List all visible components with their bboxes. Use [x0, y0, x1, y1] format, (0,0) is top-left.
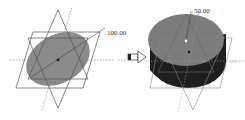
side-label: DIL1 — [230, 59, 241, 64]
handle-point — [188, 51, 190, 53]
center-point — [185, 40, 188, 43]
extrude-diagram: 100.00 50.00 DIL1 — [0, 0, 245, 120]
transform-arrow — [118, 51, 146, 63]
dimension-label-50: 50.00 — [194, 7, 210, 15]
dimension-label-100: 100.00 — [107, 29, 127, 37]
cylinder-view: 50.00 DIL1 — [148, 7, 245, 112]
sketch-view: 100.00 — [10, 7, 127, 110]
center-point — [57, 59, 60, 62]
